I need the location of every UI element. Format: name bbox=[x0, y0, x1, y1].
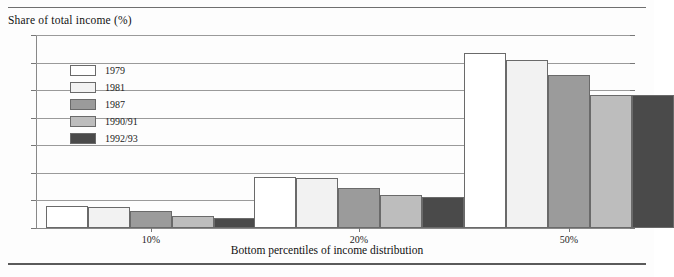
bar bbox=[590, 95, 632, 228]
bar bbox=[296, 178, 338, 228]
y-tick-mark-right bbox=[630, 63, 635, 64]
bar bbox=[506, 60, 548, 228]
x-tick-mark bbox=[359, 228, 360, 232]
y-axis-line bbox=[36, 35, 37, 228]
y-tick-mark-right bbox=[630, 35, 635, 36]
y-tick-mark bbox=[31, 35, 36, 36]
bar bbox=[380, 195, 422, 228]
y-tick-mark bbox=[31, 145, 36, 146]
bar bbox=[88, 207, 130, 228]
legend-item: 1979 bbox=[70, 62, 190, 79]
legend: 1979198119871990/911992/93 bbox=[70, 62, 190, 147]
legend-label: 1979 bbox=[105, 65, 125, 76]
chart-title: Share of total income (%) bbox=[8, 14, 132, 26]
bottom-divider-rule bbox=[8, 263, 646, 265]
legend-label: 1987 bbox=[105, 99, 125, 110]
legend-item: 1990/91 bbox=[70, 113, 190, 130]
legend-swatch bbox=[70, 99, 96, 110]
x-tick-mark bbox=[569, 228, 570, 232]
y-tick-mark bbox=[31, 228, 36, 229]
legend-item: 1992/93 bbox=[70, 130, 190, 147]
bar bbox=[172, 216, 214, 228]
bar bbox=[46, 206, 88, 228]
y-tick-mark bbox=[31, 118, 36, 119]
gridline bbox=[36, 35, 630, 36]
y-tick-mark bbox=[31, 173, 36, 174]
bar bbox=[464, 53, 506, 228]
x-axis-line bbox=[36, 228, 630, 229]
y-tick-mark-right bbox=[630, 90, 635, 91]
top-divider-rule bbox=[8, 7, 646, 8]
y-tick-mark bbox=[31, 90, 36, 91]
bar bbox=[632, 95, 674, 228]
legend-item: 1981 bbox=[70, 79, 190, 96]
bar bbox=[422, 197, 464, 228]
bar bbox=[214, 218, 256, 228]
x-axis-caption: Bottom percentiles of income distributio… bbox=[0, 244, 654, 256]
y-tick-mark-right bbox=[630, 228, 635, 229]
legend-swatch bbox=[70, 116, 96, 127]
bar bbox=[338, 188, 380, 228]
legend-swatch bbox=[70, 82, 96, 93]
legend-swatch bbox=[70, 133, 96, 144]
legend-label: 1981 bbox=[105, 82, 125, 93]
legend-label: 1992/93 bbox=[105, 133, 138, 144]
legend-swatch bbox=[70, 65, 96, 76]
legend-item: 1987 bbox=[70, 96, 190, 113]
y-tick-mark bbox=[31, 200, 36, 201]
y-tick-mark bbox=[31, 63, 36, 64]
x-tick-mark bbox=[151, 228, 152, 232]
bar bbox=[130, 211, 172, 228]
legend-label: 1990/91 bbox=[105, 116, 138, 127]
bar bbox=[548, 75, 590, 228]
bar bbox=[254, 177, 296, 228]
